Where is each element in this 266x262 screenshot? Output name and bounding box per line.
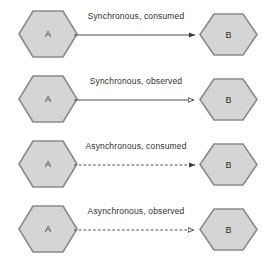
node-target-hexagon: B xyxy=(199,78,258,121)
edge-label: Asynchronous, consumed xyxy=(62,141,210,151)
message-type-diagram: A Synchronous, consumed B xyxy=(0,0,266,262)
diagram-row: A Synchronous, consumed B xyxy=(0,2,266,64)
diagram-row: A Asynchronous, observed B xyxy=(0,197,266,259)
node-target-hexagon: B xyxy=(199,208,258,251)
node-target-hexagon: B xyxy=(199,13,258,56)
diagram-row: A Asynchronous, consumed B xyxy=(0,132,266,194)
node-target-hexagon: B xyxy=(199,143,258,186)
edge-label: Synchronous, consumed xyxy=(62,11,210,21)
diagram-row: A Synchronous, observed B xyxy=(0,67,266,129)
edge-label: Asynchronous, observed xyxy=(62,206,210,216)
edge-label: Synchronous, observed xyxy=(62,76,210,86)
